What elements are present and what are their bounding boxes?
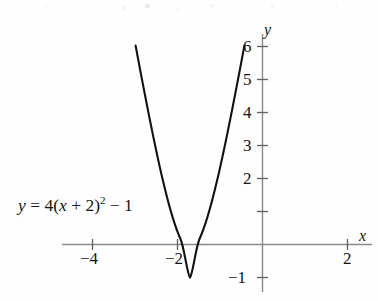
y-tick-label-5: 5: [243, 71, 252, 88]
equation-tail: − 1: [105, 195, 132, 215]
equation-annotation: y = 4(x + 2)2 − 1: [18, 197, 133, 215]
y-tick-label-4: 4: [243, 104, 252, 121]
x-tick-label-2: 2: [343, 250, 352, 267]
x-tick-label-minus-4: −4: [80, 250, 98, 267]
equation-inner-variable: x: [59, 195, 67, 215]
y-tick-label-6: 6: [243, 38, 252, 55]
y-axis-label: y: [264, 22, 271, 38]
equation-inner-rest: + 2): [67, 195, 100, 215]
y-tick-label-2: 2: [243, 170, 252, 187]
equation-equals: =: [26, 195, 45, 215]
x-axis-label: x: [359, 228, 366, 244]
equation-coefficient: 4(: [44, 195, 59, 215]
y-tick-label-3: 3: [243, 137, 252, 154]
y-tick-label-minus-1: −1: [228, 269, 246, 286]
equation-lhs: y: [18, 195, 26, 215]
plot-canvas: [0, 0, 378, 301]
graph-figure: 6 5 4 3 2 −1 −4 −2 2 y x y = 4(x + 2)2 −…: [0, 0, 378, 301]
parabola-curve: [136, 46, 245, 278]
x-tick-label-minus-2: −2: [165, 250, 183, 267]
